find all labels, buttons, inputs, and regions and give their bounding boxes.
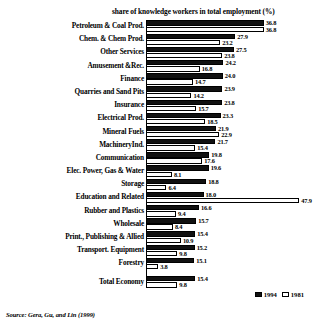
bar-group: 36.836.8 — [146, 20, 314, 33]
bar-group: 21.922.9 — [146, 126, 314, 139]
chart-row: Amusement &Rec.24.216.8 — [0, 60, 314, 73]
value-label-1981: 15.7 — [198, 105, 208, 112]
chart-row: Forestry15.13.8 — [0, 257, 314, 270]
bar-1994 — [146, 192, 204, 197]
legend-label-1994: 1994 — [264, 291, 277, 298]
value-label-1981: 18.5 — [207, 118, 217, 125]
value-label-1981: 3.8 — [160, 263, 167, 270]
bar-1981 — [146, 145, 195, 150]
bar-1994 — [146, 47, 234, 52]
category-label: Total Economy — [0, 277, 144, 286]
bar-1994 — [146, 126, 216, 131]
legend-swatch-1994 — [255, 292, 262, 297]
value-label-1981: 17.6 — [204, 157, 214, 164]
bar-group: 23.815.7 — [146, 99, 314, 112]
bar-1981 — [146, 119, 205, 124]
value-label-1994: 18.8 — [208, 178, 218, 185]
bar-1994 — [146, 218, 196, 223]
bar-group: 19.817.6 — [146, 152, 314, 165]
category-label: Chem. & Chem Prod. — [0, 34, 144, 43]
bar-group: 16.69.4 — [146, 205, 314, 218]
value-label-1994: 23.3 — [223, 112, 233, 119]
bar-group: 15.13.8 — [146, 257, 314, 270]
chart-row: Elec. Power, Gas & Water19.68.1 — [0, 165, 314, 178]
legend-swatch-1981 — [282, 292, 289, 297]
value-label-1994: 24.2 — [225, 59, 235, 66]
knowledge-workers-bar-chart: share of knowledge workers in total empl… — [0, 0, 314, 326]
bar-group: 27.523.8 — [146, 46, 314, 59]
bar-1981 — [146, 251, 177, 256]
value-label-1981: 15.4 — [197, 144, 207, 151]
chart-row: Electrical Prod.23.318.5 — [0, 112, 314, 125]
category-label: Finance — [0, 74, 144, 83]
chart-row: Insurance23.815.7 — [0, 99, 314, 112]
value-label-1981: 9.4 — [178, 210, 185, 217]
value-label-1994: 15.1 — [196, 257, 206, 264]
category-label: Wholesale — [0, 219, 144, 228]
chart-row: Education and Related18.047.9 — [0, 191, 314, 204]
chart-row: Total Economy15.49.8 — [0, 276, 314, 289]
bar-group: 18.86.4 — [146, 178, 314, 191]
value-label-1994: 16.6 — [201, 204, 211, 211]
legend-item-1994: 1994 — [255, 291, 277, 298]
chart-row: Chem. & Chem Prod.27.923.2 — [0, 33, 314, 46]
chart-row: Finance24.014.7 — [0, 73, 314, 86]
category-label: Rubber and Plastics — [0, 206, 144, 215]
chart-row: Petroleum & Coal Prod.36.836.8 — [0, 20, 314, 33]
chart-row: Transport. Equipment15.29.8 — [0, 244, 314, 257]
value-label-1994: 23.8 — [224, 99, 234, 106]
value-label-1994: 19.6 — [211, 164, 221, 171]
bar-1981 — [146, 211, 176, 216]
chart-row: MachineryInd.21.715.4 — [0, 139, 314, 152]
value-label-1994: 15.4 — [197, 275, 207, 282]
category-label: Communication — [0, 153, 144, 162]
chart-legend: 1994 1981 — [255, 291, 304, 298]
bar-group: 21.715.4 — [146, 139, 314, 152]
value-label-1994: 15.4 — [197, 230, 207, 237]
plot-area: Petroleum & Coal Prod.36.836.8Chem. & Ch… — [0, 20, 314, 286]
value-label-1981: 36.8 — [266, 26, 276, 33]
bar-group: 15.410.9 — [146, 231, 314, 244]
legend-label-1981: 1981 — [291, 291, 304, 298]
bar-group: 15.29.8 — [146, 244, 314, 257]
bar-1981 — [146, 93, 191, 98]
category-label: Amusement &Rec. — [0, 61, 144, 70]
bar-1994 — [146, 73, 223, 78]
value-label-1981: 47.9 — [301, 197, 311, 204]
chart-row: Wholesale15.78.4 — [0, 218, 314, 231]
category-label: Transport. Equipment — [0, 245, 144, 254]
bar-1981 — [146, 158, 202, 163]
value-label-1981: 23.2 — [222, 39, 232, 46]
bar-1994 — [146, 245, 195, 250]
bar-1994 — [146, 20, 264, 25]
bar-1994 — [146, 276, 195, 281]
value-label-1981: 22.9 — [221, 131, 231, 138]
category-label: Storage — [0, 179, 144, 188]
value-label-1981: 6.4 — [168, 184, 175, 191]
category-label: Insurance — [0, 100, 144, 109]
bar-group: 23.318.5 — [146, 112, 314, 125]
bar-1981 — [146, 40, 220, 45]
bar-group: 18.047.9 — [146, 191, 314, 204]
value-label-1994: 18.0 — [206, 191, 216, 198]
category-label: Forestry — [0, 258, 144, 267]
value-label-1994: 15.2 — [197, 244, 207, 251]
value-label-1981: 23.8 — [224, 52, 234, 59]
category-label: Electrical Prod. — [0, 113, 144, 122]
bar-1994 — [146, 100, 222, 105]
value-label-1981: 10.9 — [183, 237, 193, 244]
bar-1994 — [146, 258, 194, 263]
bar-1981 — [146, 238, 181, 243]
bar-1994 — [146, 205, 199, 210]
bar-1981 — [146, 132, 219, 137]
value-label-1981: 9.8 — [179, 281, 186, 288]
value-label-1994: 15.7 — [198, 217, 208, 224]
chart-row: Quarries and Sand Pits23.914.2 — [0, 86, 314, 99]
value-label-1981: 14.7 — [195, 78, 205, 85]
category-label: MachineryInd. — [0, 140, 144, 149]
chart-row: Mineral Fuels21.922.9 — [0, 126, 314, 139]
value-label-1981: 8.4 — [175, 223, 182, 230]
chart-row: Storage18.86.4 — [0, 178, 314, 191]
bar-1981 — [146, 27, 264, 32]
category-label: Petroleum & Coal Prod. — [0, 21, 144, 30]
